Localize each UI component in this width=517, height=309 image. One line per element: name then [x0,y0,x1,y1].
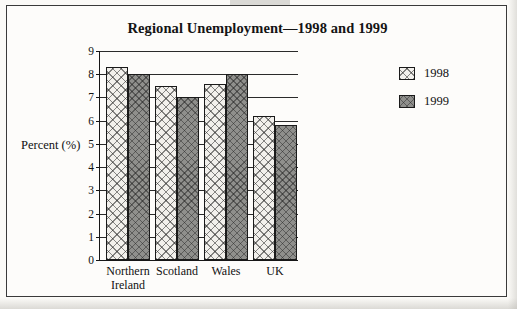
ytick-label-4: 4 [88,161,94,173]
cross-hatch-dark-swatch-icon [399,95,415,108]
tickmark-3 [96,190,100,191]
bar-group-uk: UK [253,51,297,260]
tickmark-0 [96,260,100,261]
tickmark-7 [96,97,100,98]
bar-1998-wales[interactable] [204,84,226,261]
scan-artifact-top [230,0,290,5]
bar-1999-scotland[interactable] [177,97,199,260]
tickmark-8 [96,74,100,75]
tickmark-2 [96,214,100,215]
scan-shadow-right [508,0,517,309]
legend-item-1999[interactable]: 1999 [399,94,449,109]
plot-area: 9 8 7 6 5 4 3 2 1 [99,51,298,261]
ytick-label-3: 3 [88,184,94,196]
bar-1998-scotland[interactable] [155,86,177,260]
tickmark-6 [96,121,100,122]
ytick-label-2: 2 [88,208,94,220]
scan-shadow-bottom [0,298,517,309]
tickmark-4 [96,167,100,168]
ytick-label-5: 5 [88,138,94,150]
bar-group-northern-ireland: Northern Ireland [106,51,150,260]
figure-frame: Regional Unemployment—1998 and 1999 Perc… [6,5,507,297]
ytick-label-7: 7 [88,91,94,103]
y-axis-title: Percent (%) [21,138,80,153]
tickmark-1 [96,237,100,238]
bar-group-wales: Wales [204,51,248,260]
bar-1998-uk[interactable] [253,116,275,260]
ytick-label-8: 8 [88,68,94,80]
cross-hatch-light-swatch-icon [399,67,415,80]
ytick-label-6: 6 [88,115,94,127]
legend-label-1998: 1998 [424,66,449,81]
x-label-uk: UK [227,264,323,278]
bar-group-scotland: Scotland [155,51,199,260]
tickmark-9 [96,51,100,52]
tickmark-5 [96,144,100,145]
chart-page: Regional Unemployment—1998 and 1999 Perc… [0,0,517,309]
ytick-label-1: 1 [88,231,94,243]
bar-1999-wales[interactable] [226,74,248,260]
legend-label-1999: 1999 [424,94,449,109]
bar-1999-uk[interactable] [275,125,297,260]
page-title: Regional Unemployment—1998 and 1999 [7,20,508,37]
legend: 1998 1999 [399,66,449,122]
bar-1999-northern-ireland[interactable] [128,74,150,260]
ytick-label-9: 9 [88,45,94,57]
x-label-northern-ireland-line2: Ireland [80,278,176,292]
x-label-uk-line1: UK [227,264,323,278]
bar-1998-northern-ireland[interactable] [106,67,128,260]
legend-item-1998[interactable]: 1998 [399,66,449,81]
